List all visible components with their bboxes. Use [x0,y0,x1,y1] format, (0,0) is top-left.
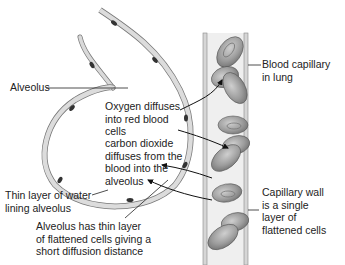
label-oxygen-diffuses: Oxygen diffuses into red blood cells [105,100,180,138]
label-co2-diffuses: carbon dioxide diffuses from the blood i… [105,137,182,187]
label-blood-capillary: Blood capillary in lung [262,58,330,83]
gas-exchange-diagram: Alveolus Blood capillary in lung Oxygen … [0,0,345,265]
label-water-layer: Thin layer of water lining alveolus [5,189,91,214]
label-alveolus-wall: Alveolus has thin layer of flattened cel… [36,220,151,258]
label-alveolus: Alveolus [10,81,50,94]
label-capillary-wall: Capillary wall is a single layer of flat… [262,186,326,236]
